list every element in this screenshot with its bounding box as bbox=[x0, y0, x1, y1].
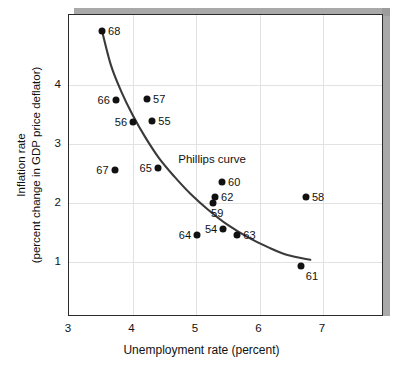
data-point-label: 66 bbox=[98, 94, 110, 106]
data-point bbox=[212, 194, 219, 201]
y-tick-label: 4 bbox=[55, 78, 61, 90]
data-point bbox=[111, 167, 118, 174]
data-point-label: 58 bbox=[312, 191, 324, 203]
data-point bbox=[220, 226, 227, 233]
data-point-label: 56 bbox=[115, 116, 127, 128]
y-tick-label: 2 bbox=[55, 196, 61, 208]
data-point bbox=[194, 232, 201, 239]
x-axis-title: Unemployment rate (percent) bbox=[0, 343, 403, 357]
data-point-label: 61 bbox=[306, 270, 318, 282]
data-point-label: 60 bbox=[228, 176, 240, 188]
data-point bbox=[130, 119, 137, 126]
data-point-label: 62 bbox=[221, 191, 233, 203]
data-point bbox=[149, 118, 156, 125]
y-tick-label: 3 bbox=[55, 137, 61, 149]
data-point bbox=[112, 96, 119, 103]
data-point-label: 59 bbox=[211, 207, 223, 219]
data-point-label: 63 bbox=[243, 229, 255, 241]
x-tick-label: 6 bbox=[255, 322, 261, 334]
data-point-label: 68 bbox=[108, 25, 120, 37]
data-point bbox=[297, 263, 304, 270]
phillips-curve-annotation: Phillips curve bbox=[178, 153, 246, 165]
data-point bbox=[154, 165, 161, 172]
data-point-label: 67 bbox=[96, 164, 108, 176]
x-tick-label: 4 bbox=[128, 322, 134, 334]
y-tick-label: 1 bbox=[55, 255, 61, 267]
data-point-label: 55 bbox=[158, 115, 170, 127]
data-point bbox=[234, 232, 241, 239]
data-point bbox=[144, 95, 151, 102]
x-tick-label: 3 bbox=[65, 322, 71, 334]
data-point-label: 64 bbox=[179, 229, 191, 241]
y-axis-title: Inflation rate (percent change in GDP pr… bbox=[14, 40, 44, 290]
y-axis-title-line2: (percent change in GDP price deflator) bbox=[29, 40, 44, 290]
data-point bbox=[302, 194, 309, 201]
plot-area: 545556575859606162636465666768 Phillips … bbox=[68, 14, 383, 316]
y-axis-title-line1: Inflation rate bbox=[14, 40, 29, 290]
data-point bbox=[219, 178, 226, 185]
data-point-label: 65 bbox=[139, 162, 151, 174]
data-point-label: 54 bbox=[205, 223, 217, 235]
phillips-curve-figure: 545556575859606162636465666768 Phillips … bbox=[0, 0, 403, 372]
data-point-label: 57 bbox=[153, 93, 165, 105]
data-point bbox=[99, 27, 106, 34]
x-tick-label: 5 bbox=[192, 322, 198, 334]
x-tick-label: 7 bbox=[319, 322, 325, 334]
